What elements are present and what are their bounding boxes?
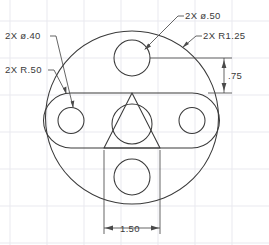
callout-slot-radius: 2X R.50 <box>5 64 66 94</box>
callout-text-top-hole: 2X ø.50 <box>185 10 221 21</box>
vertical-dimension-075: .75 <box>150 58 242 93</box>
callout-text-slot-hole: 2X ø.40 <box>5 30 41 41</box>
horizontal-dimension-150: 1.50 <box>104 150 160 234</box>
cad-drawing-svg: .75 1.50 2X ø.50 2X R1.25 2X ø. <box>0 0 269 245</box>
technical-drawing-canvas: .75 1.50 2X ø.50 2X R1.25 2X ø. <box>0 0 269 245</box>
dim-text-150: 1.50 <box>120 223 140 234</box>
outer-circle-outline <box>46 31 219 204</box>
callout-outer-radius: 2X R1.25 <box>182 30 245 48</box>
arrowhead-075-bottom <box>222 83 227 91</box>
horizontal-slot-outline <box>44 93 220 148</box>
arrowhead-150-left <box>105 226 113 231</box>
center-hole <box>112 104 152 144</box>
right-slot-hole <box>179 108 205 134</box>
left-slot-hole <box>58 108 84 134</box>
callout-text-outer-radius: 2X R1.25 <box>203 30 245 41</box>
arrowhead-slot-hole <box>71 100 75 108</box>
arrowhead-075-top <box>222 60 227 68</box>
callout-text-slot-radius: 2X R.50 <box>5 64 42 75</box>
part-body <box>44 31 220 204</box>
bottom-hole <box>114 159 150 195</box>
dim-text-075: .75 <box>228 70 242 81</box>
